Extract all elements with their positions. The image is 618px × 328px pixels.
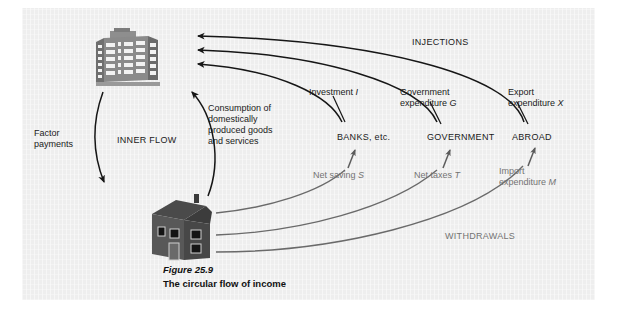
label-consumption: Consumption of domestically produced goo… — [208, 103, 273, 147]
figure-circular-flow-of-income: Factor payments INNER FLOW Consumption o… — [0, 0, 618, 328]
label-net-taxes: Net taxes T — [414, 170, 460, 181]
label-import-expenditure: Import expenditure M — [499, 166, 556, 188]
withdrawal-to-banks-arrow — [348, 150, 355, 168]
withdrawal-to-abroad-arrow — [528, 148, 535, 166]
label-net-saving: Net saving S — [313, 170, 364, 181]
label-injections: INJECTIONS — [412, 37, 469, 48]
diagram-artwork — [0, 0, 618, 328]
house-icon — [152, 194, 212, 260]
label-export-expenditure: Export expenditure X — [508, 87, 564, 109]
label-investment: Investment I — [309, 87, 358, 98]
inner-flow-factor-payments-arrow — [95, 92, 104, 182]
figure-number: Figure 25.9 — [163, 263, 213, 276]
sector-label-banks: BANKS, etc. — [337, 132, 390, 143]
label-factor-payments: Factor payments — [34, 128, 73, 150]
label-inner-flow: INNER FLOW — [117, 135, 177, 146]
label-withdrawals: WITHDRAWALS — [445, 231, 515, 242]
label-government-expenditure: Government expenditure G — [400, 87, 457, 109]
office-building-icon — [96, 28, 160, 86]
withdrawal-to-government-arrow — [443, 150, 450, 168]
sector-label-government: GOVERNMENT — [427, 132, 495, 143]
figure-title: The circular flow of income — [163, 277, 286, 290]
sector-label-abroad: ABROAD — [512, 132, 552, 143]
